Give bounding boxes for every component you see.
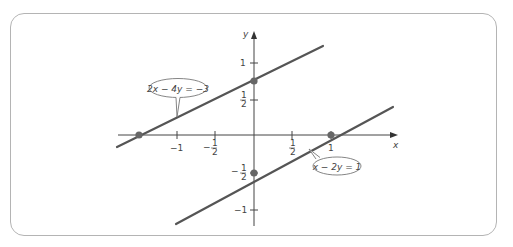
x-tick-label-neg-half-den: 2 bbox=[212, 147, 218, 157]
x-axis-label: x bbox=[392, 140, 399, 150]
point-y-intercept-line2 bbox=[250, 169, 257, 176]
x-tick-label-one: 1 bbox=[328, 143, 334, 153]
y-tick-label-half-den: 2 bbox=[241, 99, 247, 109]
x-tick-label-half-den: 2 bbox=[290, 147, 296, 157]
y-axis-arrow-icon bbox=[251, 31, 257, 39]
point-x-intercept-line2 bbox=[327, 131, 334, 138]
x-tick-minus: − bbox=[203, 142, 211, 152]
coordinate-plot: x y −1 − 1 2 1 2 1 1 1 2 − 1 2 −1 bbox=[0, 0, 513, 247]
y-axis-label: y bbox=[242, 29, 249, 39]
y-tick-minus: − bbox=[231, 166, 239, 176]
y-tick-label-one: 1 bbox=[240, 58, 246, 68]
point-y-intercept-line1 bbox=[250, 77, 257, 84]
y-tick-label-neg1: −1 bbox=[234, 205, 247, 215]
callout-line1: 2x − 4y = −3 bbox=[147, 79, 209, 118]
y-tick-label-neg-half-den: 2 bbox=[241, 172, 247, 182]
callout-line2-text: x − 2y = 1 bbox=[312, 162, 362, 172]
point-x-intercept-line1 bbox=[135, 131, 142, 138]
x-axis-arrow-icon bbox=[390, 132, 398, 138]
x-tick-label-neg1: −1 bbox=[170, 143, 183, 153]
callout-line2: x − 2y = 1 bbox=[309, 149, 361, 175]
callout-line1-text: 2x − 4y = −3 bbox=[147, 84, 209, 94]
